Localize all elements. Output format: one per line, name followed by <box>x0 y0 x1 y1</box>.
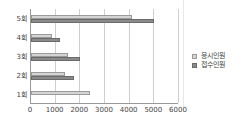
bar-registrants <box>31 76 74 80</box>
x-tick-label: 1000 <box>46 106 64 114</box>
x-tick-label: 2000 <box>70 106 88 114</box>
plot-area <box>30 9 178 104</box>
x-tick-label: 0 <box>28 106 32 114</box>
gridline <box>104 9 105 103</box>
x-tick-label: 4000 <box>120 106 138 114</box>
bar-registrants <box>31 38 60 42</box>
x-tick-label: 6000 <box>169 106 187 114</box>
y-category-label: 2회 <box>0 72 27 80</box>
x-tick-label: 3000 <box>95 106 113 114</box>
y-category-label: 4회 <box>0 34 27 42</box>
legend-swatch <box>192 54 197 59</box>
gridline <box>178 9 179 103</box>
bar-registrants <box>31 57 80 61</box>
y-category-label: 1회 <box>0 91 27 99</box>
legend-label: 응시인원 <box>201 52 225 61</box>
y-category-label: 5회 <box>0 15 27 23</box>
x-tick-label: 5000 <box>144 106 162 114</box>
legend-label: 접수인원 <box>201 61 225 70</box>
divider <box>183 0 184 110</box>
gridline <box>129 9 130 103</box>
gridline <box>153 9 154 103</box>
bar-applicants <box>31 91 90 95</box>
y-category-label: 3회 <box>0 53 27 61</box>
legend-swatch <box>192 63 197 68</box>
legend: 응시인원 접수인원 <box>192 52 225 70</box>
legend-item-applicants: 응시인원 <box>192 52 225 61</box>
legend-item-registrants: 접수인원 <box>192 61 225 70</box>
bar-registrants <box>31 19 154 23</box>
